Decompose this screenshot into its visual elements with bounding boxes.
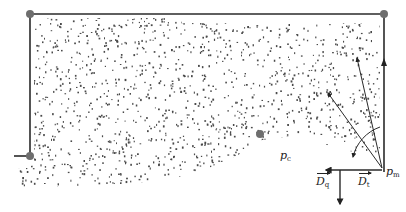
bottom-left-node bbox=[26, 152, 34, 160]
label-dt-sub: t bbox=[367, 181, 370, 189]
label-pm: pm bbox=[386, 166, 400, 179]
label-pc-base: p bbox=[280, 149, 287, 162]
label-dq: Dq bbox=[316, 176, 329, 189]
particle-region bbox=[14, 16, 383, 190]
top-right-node bbox=[380, 10, 388, 18]
label-dt-base: D bbox=[358, 175, 367, 188]
label-dt-vector: Dt bbox=[358, 176, 370, 189]
label-pm-sub: m bbox=[393, 171, 400, 179]
label-pc-sub: c bbox=[287, 155, 291, 163]
right-line-arrow-icon bbox=[381, 58, 387, 66]
top-left-node bbox=[26, 10, 34, 18]
label-dq-vector: Dq bbox=[316, 176, 329, 189]
label-pc: pc bbox=[280, 150, 291, 163]
label-dt: Dt bbox=[358, 176, 370, 189]
label-pm-base: p bbox=[386, 165, 393, 178]
label-dq-sub: q bbox=[325, 181, 329, 189]
diagram-canvas bbox=[0, 0, 406, 212]
front-node bbox=[256, 130, 264, 138]
label-dq-base: D bbox=[316, 175, 325, 188]
